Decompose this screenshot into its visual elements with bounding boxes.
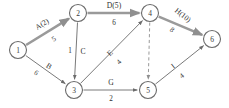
- node-5[interactable]: 5: [140, 82, 157, 99]
- edge-weight-3-5: 2: [109, 95, 113, 103]
- network-diagram-canvas: 123456 A(2)5B6C1D(5)6E4G2H(10)8I4: [0, 0, 229, 108]
- node-2[interactable]: 2: [70, 5, 87, 22]
- edge-weight-2-3: 1: [68, 47, 72, 55]
- edge-label-1-2: A(2): [34, 16, 51, 31]
- edge-weight-4-6: 8: [168, 26, 176, 35]
- node-label-2: 2: [76, 9, 80, 18]
- node-4[interactable]: 4: [142, 5, 159, 22]
- edge-4-to-6: [159, 17, 202, 35]
- edge-weight-2-4: 6: [112, 19, 116, 27]
- node-label-6: 6: [210, 35, 214, 44]
- node-1[interactable]: 1: [10, 42, 27, 59]
- node-6[interactable]: 6: [204, 31, 221, 48]
- edge-label-5-6: I: [169, 61, 177, 70]
- edge-weight-1-2: 5: [50, 34, 58, 43]
- edge-labels-layer: A(2)5B6C1D(5)6E4G2H(10)8I4: [32, 1, 193, 104]
- edge-5-to-6: [155, 46, 203, 84]
- edge-1-to-3: [26, 56, 66, 84]
- network-diagram: 123456 A(2)5B6C1D(5)6E4G2H(10)8I4: [0, 0, 229, 108]
- edge-weight-3-4: 4: [115, 58, 123, 66]
- edge-label-3-5: G: [108, 78, 114, 87]
- node-label-3: 3: [72, 86, 76, 95]
- node-label-4: 4: [148, 9, 152, 18]
- edge-label-2-3: C: [80, 47, 85, 56]
- edge-4-to-5: [148, 22, 149, 79]
- edge-weight-1-3: 6: [32, 69, 40, 78]
- node-label-1: 1: [16, 46, 20, 55]
- edge-weight-5-6: 4: [178, 71, 186, 80]
- edge-2-to-3: [75, 22, 78, 79]
- node-3[interactable]: 3: [66, 82, 83, 99]
- edge-label-2-4: D(5): [107, 1, 122, 10]
- node-label-5: 5: [146, 86, 150, 95]
- edge-label-4-6: H(10): [173, 6, 193, 25]
